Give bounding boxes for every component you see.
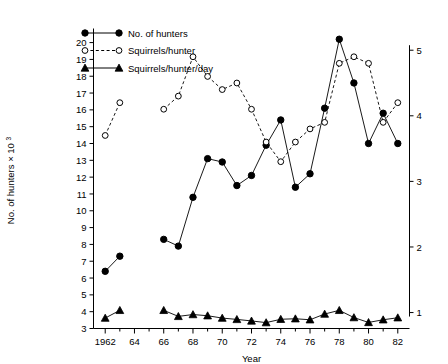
- data-point: [189, 311, 197, 318]
- legend-layer: No. of huntersSquirrels/hunterSquirrels/…: [81, 28, 213, 74]
- data-point: [350, 314, 358, 321]
- y-tick-label-left: 11: [77, 189, 87, 200]
- data-point: [366, 60, 372, 66]
- legend-label: Squirrels/hunter/day: [128, 63, 213, 74]
- chart-container: 3456789101112131415161718192012345196264…: [0, 0, 448, 364]
- data-point: [219, 159, 225, 165]
- y-tick-label-left: 10: [76, 205, 87, 216]
- axes-layer: 3456789101112131415161718192012345196264…: [76, 29, 422, 347]
- x-tick-label: 68: [188, 336, 199, 347]
- data-point: [117, 100, 123, 106]
- data-point: [351, 80, 357, 86]
- series-squirrels-hunter-day: [101, 306, 401, 325]
- data-point: [380, 119, 386, 125]
- y-tick-label-left: 3: [81, 323, 86, 334]
- y-tick-label-left: 14: [76, 138, 87, 149]
- data-point: [263, 139, 269, 145]
- y-tick-label-right: 2: [417, 242, 422, 253]
- x-tick-label: 76: [305, 336, 316, 347]
- legend-entry-3: Squirrels/hunter/day: [81, 63, 213, 74]
- data-point: [102, 268, 108, 274]
- data-point: [101, 314, 109, 321]
- y-tick-label-left: 9: [81, 222, 86, 233]
- y-tick-label-right: 3: [417, 176, 422, 187]
- y-tick-label-left: 20: [76, 37, 87, 48]
- legend-marker: [82, 30, 88, 36]
- legend-marker: [116, 48, 122, 54]
- x-tick-label: 80: [363, 336, 374, 347]
- legend-entry-2: Squirrels/hunter: [82, 45, 195, 56]
- y-tick-label-left: 13: [76, 155, 87, 166]
- data-point: [322, 119, 328, 125]
- legend-entry-1: No. of hunters: [82, 28, 188, 39]
- legend-label: Squirrels/hunter: [128, 45, 195, 56]
- data-point: [394, 314, 402, 321]
- data-point: [278, 117, 284, 123]
- data-point: [321, 105, 327, 111]
- y-tick-label-left: 18: [76, 71, 87, 82]
- series-layer: [101, 36, 401, 326]
- y-axis-title: No. of hunters × 10 3: [5, 136, 16, 224]
- data-point: [307, 171, 313, 177]
- y-tick-label-left: 6: [81, 273, 86, 284]
- y-tick-label-left: 5: [81, 289, 86, 300]
- x-tick-label: 74: [275, 336, 286, 347]
- data-point: [335, 306, 343, 313]
- data-point: [116, 306, 124, 313]
- data-point: [351, 54, 357, 60]
- data-point: [161, 106, 167, 112]
- data-point: [234, 80, 240, 86]
- data-point: [336, 60, 342, 66]
- y-tick-label-right: 4: [417, 110, 422, 121]
- x-tick-label: 72: [246, 336, 257, 347]
- data-point: [395, 100, 401, 106]
- data-point: [336, 36, 342, 42]
- data-point: [175, 243, 181, 249]
- data-point: [292, 184, 298, 190]
- y-tick-label-left: 19: [76, 54, 87, 65]
- series-line: [105, 103, 120, 136]
- y-tick-label-left: 17: [76, 88, 87, 99]
- data-point: [161, 236, 167, 242]
- data-point: [249, 106, 255, 112]
- data-point: [160, 306, 168, 313]
- data-point: [102, 133, 108, 139]
- data-point: [365, 140, 371, 146]
- chart-svg: 3456789101112131415161718192012345196264…: [0, 0, 448, 364]
- y-tick-label-right: 1: [417, 307, 422, 318]
- y-tick-label-left: 15: [76, 121, 87, 132]
- data-point: [219, 87, 225, 93]
- data-point: [205, 74, 211, 80]
- x-tick-label: 78: [334, 336, 345, 347]
- data-point: [204, 155, 210, 161]
- data-point: [117, 253, 123, 259]
- legend-marker: [82, 48, 88, 54]
- data-point: [190, 194, 196, 200]
- data-point: [175, 93, 181, 99]
- y-axis-title-exponent: 3: [5, 136, 12, 140]
- x-tick-label: 64: [129, 336, 140, 347]
- y-tick-label-left: 16: [76, 104, 87, 115]
- legend-label: No. of hunters: [128, 28, 188, 39]
- y-tick-label-left: 8: [81, 239, 86, 250]
- x-axis-title: Year: [242, 353, 261, 364]
- data-point: [234, 182, 240, 188]
- x-tick-label: 1962: [95, 336, 116, 347]
- y-tick-label-left: 12: [76, 172, 87, 183]
- data-point: [278, 159, 284, 165]
- y-tick-label-right: 5: [417, 45, 422, 56]
- y-tick-label-left: 4: [81, 306, 86, 317]
- data-point: [292, 139, 298, 145]
- y-tick-label-left: 7: [81, 256, 86, 267]
- data-point: [395, 140, 401, 146]
- data-point: [248, 172, 254, 178]
- x-tick-label: 82: [393, 336, 404, 347]
- legend-marker: [116, 30, 122, 36]
- data-point: [307, 126, 313, 132]
- x-tick-label: 66: [158, 336, 169, 347]
- x-tick-label: 70: [217, 336, 228, 347]
